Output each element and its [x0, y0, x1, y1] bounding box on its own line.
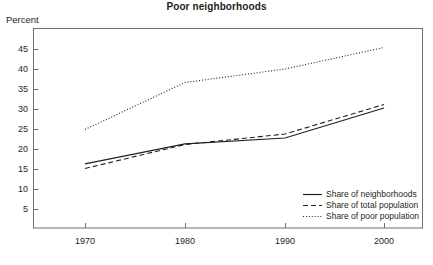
x-axis-ticks	[86, 223, 385, 228]
series-share-of-total-population	[85, 105, 384, 169]
legend-item-share-of-total-population: Share of total population	[303, 199, 421, 210]
legend-label-share-of-total-population: Share of total population	[326, 200, 418, 210]
series-share-of-neighborhoods	[85, 108, 384, 164]
chart-container: Poor neighborhoods Percent 45 40 35 30 2…	[0, 0, 433, 265]
chart-legend: Share of neighborhoods Share of total po…	[303, 188, 421, 221]
legend-dotted-line-icon	[303, 211, 322, 221]
legend-item-share-of-poor-population: Share of poor population	[303, 210, 421, 221]
legend-solid-line-icon	[303, 189, 322, 199]
legend-dashed-line-icon	[303, 200, 322, 210]
legend-label-share-of-neighborhoods: Share of neighborhoods	[326, 189, 417, 199]
series-share-of-poor-population	[85, 48, 384, 130]
y-axis-ticks	[34, 50, 39, 210]
legend-item-share-of-neighborhoods: Share of neighborhoods	[303, 188, 421, 199]
legend-label-share-of-poor-population: Share of poor population	[326, 211, 419, 221]
plot-area	[0, 0, 433, 265]
